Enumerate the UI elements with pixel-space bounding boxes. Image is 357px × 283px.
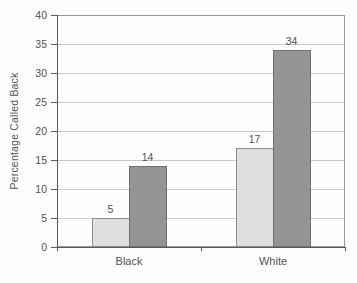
bar-light-gray-bar xyxy=(236,148,274,247)
bar-light-gray-bar xyxy=(92,218,130,247)
y-tick-label: 25 xyxy=(15,96,47,109)
y-tick-label: 0 xyxy=(15,241,47,254)
y-tick-label: 10 xyxy=(15,183,47,196)
x-tick xyxy=(201,247,202,251)
bar-value-label: 5 xyxy=(95,203,127,216)
bar-dark-gray-bar xyxy=(273,50,311,247)
x-tick xyxy=(57,247,58,251)
bar-value-label: 14 xyxy=(132,151,164,164)
y-axis-line xyxy=(57,15,58,248)
y-tick-label: 30 xyxy=(15,67,47,80)
category-label: Black xyxy=(89,255,169,268)
bar-chart-figure: Percentage Called Back 05101520253035405… xyxy=(0,0,357,283)
y-tick-label: 5 xyxy=(15,212,47,225)
x-tick xyxy=(345,247,346,251)
bar-value-label: 34 xyxy=(276,35,308,48)
y-tick-label: 15 xyxy=(15,154,47,167)
y-tick-label: 40 xyxy=(15,9,47,22)
y-tick-label: 35 xyxy=(15,38,47,51)
bar-value-label: 17 xyxy=(239,133,271,146)
y-tick-label: 20 xyxy=(15,125,47,138)
bar-dark-gray-bar xyxy=(129,166,167,247)
category-label: White xyxy=(233,255,313,268)
